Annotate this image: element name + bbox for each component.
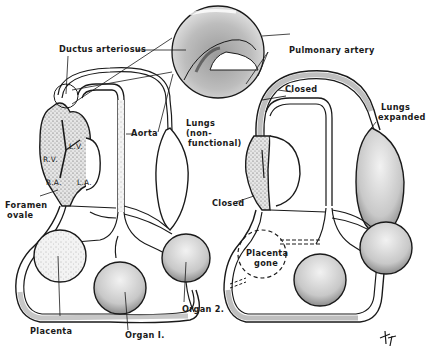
label-ductus-arteriosus: Ductus arteriosus xyxy=(59,45,146,54)
label-closed-foramen: Closed xyxy=(212,199,245,208)
organ-2 xyxy=(162,234,210,282)
label-lungs-nonfunctional-1: Lungs xyxy=(186,119,215,128)
label-aorta: Aorta xyxy=(131,129,158,138)
label-foramen-ovale-1: Foramen xyxy=(5,201,47,210)
label-la: L.A. xyxy=(77,178,92,187)
label-placenta-gone-1: Placenta xyxy=(246,249,288,258)
postnatal-heart xyxy=(246,136,270,210)
label-pulmonary-artery: Pulmonary artery xyxy=(289,46,375,55)
label-foramen-ovale-2: ovale xyxy=(7,211,33,220)
organ-1-postnatal xyxy=(294,254,346,306)
label-ra: R.A. xyxy=(46,178,62,187)
label-organ-1: Organ I. xyxy=(125,331,165,340)
label-lv: L.V. xyxy=(69,142,83,151)
magnifier-lens xyxy=(172,6,264,98)
label-lungs-nonfunctional-3: functional) xyxy=(188,139,242,148)
label-organ-2: Organ 2. xyxy=(182,305,224,314)
label-closed-ductus: Closed xyxy=(285,85,318,94)
label-lungs-expanded-1: Lungs xyxy=(381,103,410,112)
label-lungs-expanded-2: expanded xyxy=(378,113,426,122)
organ-2-postnatal xyxy=(360,222,412,274)
label-lungs-nonfunctional-2: (non- xyxy=(186,129,212,138)
artist-monogram xyxy=(380,331,396,346)
pulmonary-arch xyxy=(256,71,380,136)
organ-1 xyxy=(94,262,146,314)
label-placenta: Placenta xyxy=(30,327,72,336)
left-panel-fetal xyxy=(16,38,210,323)
label-placenta-gone-2: gone xyxy=(254,259,278,268)
label-rv: R.V. xyxy=(43,155,58,164)
placenta-organ xyxy=(34,230,86,282)
lungs-expanded xyxy=(356,128,404,238)
lungs-nonfunctional xyxy=(156,128,188,230)
